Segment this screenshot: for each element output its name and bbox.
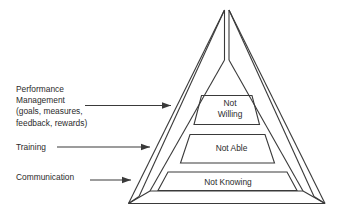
- callout-label-communication: Communication: [16, 172, 74, 183]
- callout-label-performance-management: Performance Management (goals, measures,…: [16, 84, 87, 129]
- arrow-training-head: [141, 144, 150, 151]
- pyramid-front-face-right-edge: [229, 60, 303, 191]
- tier-label-not-willing: Not Willing: [200, 98, 260, 119]
- arrow-performance-head: [162, 102, 171, 109]
- tier-label-not-knowing: Not Knowing: [140, 177, 316, 188]
- callout-label-training: Training: [16, 142, 46, 153]
- diagram-canvas: Performance Management (goals, measures,…: [0, 0, 340, 215]
- arrow-communication-head: [122, 177, 131, 184]
- pyramid-front-face-left-edge: [150, 60, 225, 191]
- tier-label-not-able: Not Able: [183, 143, 280, 154]
